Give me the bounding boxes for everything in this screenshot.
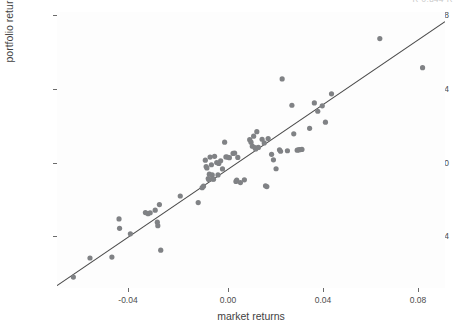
scatter-point xyxy=(109,254,114,259)
scatter-point xyxy=(148,210,153,215)
scatter-point xyxy=(307,126,312,131)
scatter-point xyxy=(315,109,320,114)
scatter-plot-canvas xyxy=(57,12,445,288)
scatter-point xyxy=(211,177,216,182)
regression-line-path xyxy=(57,22,445,286)
scatter-point xyxy=(420,65,425,70)
scatter-point xyxy=(254,129,259,134)
scatter-point xyxy=(128,231,133,236)
scatter-point xyxy=(291,131,296,136)
scatter-point xyxy=(251,134,256,139)
scatter-point xyxy=(71,274,76,279)
x-tick-mark-3 xyxy=(418,288,419,292)
scatter-point xyxy=(329,91,334,96)
x-tick-label-1: 0.00 xyxy=(220,295,237,305)
scatter-point xyxy=(209,162,214,167)
scatter-point xyxy=(377,36,382,41)
scatter-point xyxy=(262,140,267,145)
scatter-point xyxy=(320,103,325,108)
plot-panel xyxy=(57,12,445,288)
scatter-point xyxy=(155,223,160,228)
x-tick-label-3: 0.08 xyxy=(410,295,427,305)
x-tick-mark-1 xyxy=(228,288,229,292)
scatter-point xyxy=(218,158,223,163)
scatter-point xyxy=(273,166,278,171)
scatter-point xyxy=(178,193,183,198)
scatter-point xyxy=(220,166,225,171)
scatter-point xyxy=(289,103,294,108)
scatter-point xyxy=(116,216,121,221)
x-tick-label-0: -0.04 xyxy=(118,295,137,305)
scatter-point xyxy=(264,184,269,189)
scatter-point xyxy=(280,76,285,81)
scatter-point xyxy=(201,184,206,189)
scatter-point xyxy=(312,100,317,105)
scatter-point xyxy=(323,120,328,125)
scatter-point xyxy=(227,155,232,160)
x-tick-mark-2 xyxy=(323,288,324,292)
clipped-top-text: R 0.844 R xyxy=(412,0,453,4)
scatter-point xyxy=(222,140,227,145)
x-tick-mark-0 xyxy=(128,288,129,292)
scatter-point xyxy=(269,152,274,157)
scatter-point xyxy=(203,158,208,163)
scatter-points xyxy=(71,36,425,280)
scatter-point xyxy=(278,149,283,154)
scatter-point xyxy=(212,154,217,159)
scatter-point xyxy=(196,200,201,205)
scatter-point xyxy=(232,150,237,155)
scatter-point xyxy=(117,226,122,231)
scatter-point xyxy=(235,155,240,160)
scatter-point xyxy=(153,208,158,213)
scatter-point xyxy=(299,147,304,152)
scatter-point xyxy=(256,145,261,150)
scatter-point xyxy=(204,165,209,170)
y-axis-title: portfolio returns xyxy=(2,0,16,164)
regression-line xyxy=(57,22,445,286)
scatter-point xyxy=(266,136,271,141)
scatter-point xyxy=(285,148,290,153)
x-axis-title: market returns xyxy=(57,310,445,322)
scatter-point xyxy=(158,248,163,253)
scatter-point xyxy=(215,172,220,177)
scatter-point xyxy=(271,157,276,162)
chart-figure: R 0.844 R 0.08 0.04 0.00 -0.04 -0.04 0.0… xyxy=(0,0,459,334)
scatter-point xyxy=(87,255,92,260)
scatter-point xyxy=(242,177,247,182)
scatter-point xyxy=(157,202,162,207)
x-tick-label-2: 0.04 xyxy=(315,295,332,305)
scatter-point xyxy=(207,154,212,159)
